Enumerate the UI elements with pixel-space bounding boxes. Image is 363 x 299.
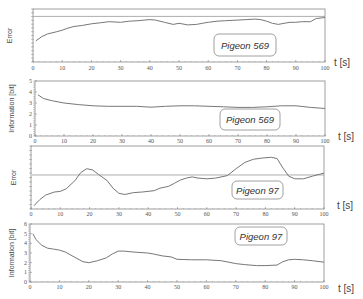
x-axis-unit-label: t [s] <box>338 131 354 142</box>
x-tick-label: 0 <box>34 138 37 144</box>
panel-information-pigeon-97: 01020304050607080901000123456Pigeon 97In… <box>8 221 354 294</box>
x-axis-unit-label: t [s] <box>337 200 353 211</box>
y-tick-label: 1 <box>24 269 27 275</box>
x-tick-label: 40 <box>148 138 154 144</box>
x-tick-label: 60 <box>206 138 212 144</box>
x-tick-label: 80 <box>262 211 268 217</box>
x-tick-label: 30 <box>118 65 124 71</box>
x-tick-label: 20 <box>86 284 92 290</box>
annotation-label: Pigeon 569 <box>226 114 275 125</box>
y-tick-label: 5 <box>24 231 27 237</box>
x-tick-label: 90 <box>292 211 298 217</box>
x-tick-label: 90 <box>293 138 299 144</box>
x-axis-unit-label: t [s] <box>338 283 354 294</box>
x-tick-label: 60 <box>205 65 211 71</box>
y-axis-label: Error <box>10 169 17 185</box>
panel-error-pigeon-569: 0102030405060708090100Pigeon 569Errort [… <box>6 9 350 71</box>
y-tick-label: 6 <box>24 221 27 227</box>
x-tick-label: 70 <box>234 65 240 71</box>
y-tick-label: 1 <box>29 122 32 128</box>
y-tick-label: 2 <box>24 260 27 266</box>
x-tick-label: 10 <box>61 138 67 144</box>
x-tick-label: 90 <box>293 65 299 71</box>
x-tick-label: 40 <box>145 284 151 290</box>
x-tick-label: 0 <box>29 284 32 290</box>
x-tick-label: 40 <box>145 211 151 217</box>
plot-frame <box>33 9 325 62</box>
x-tick-label: 30 <box>116 211 122 217</box>
y-tick-label: 3 <box>24 250 27 256</box>
annotation-label: Pigeon 569 <box>221 40 270 51</box>
y-tick-label: 0 <box>29 133 32 139</box>
y-tick-label: 2 <box>29 111 32 117</box>
x-tick-label: 80 <box>262 284 268 290</box>
panel-information-pigeon-569: 0102030405060708090100012345Pigeon 569In… <box>8 78 354 144</box>
x-tick-label: 50 <box>174 284 180 290</box>
x-tick-label: 20 <box>90 138 96 144</box>
x-tick-label: 40 <box>147 65 153 71</box>
y-tick-label: 5 <box>29 78 32 84</box>
x-tick-label: 80 <box>264 138 270 144</box>
x-tick-label: 20 <box>87 211 93 217</box>
x-tick-label: 0 <box>30 211 33 217</box>
x-tick-label: 80 <box>264 65 270 71</box>
y-tick-label: 0 <box>24 279 27 285</box>
x-tick-label: 20 <box>88 65 94 71</box>
y-axis-label: Information [bit] <box>8 229 16 277</box>
y-axis-label: Error <box>6 27 13 43</box>
x-tick-label: 100 <box>321 138 330 144</box>
x-tick-label: 70 <box>235 138 241 144</box>
series-line-error <box>36 18 325 41</box>
x-tick-label: 100 <box>320 211 329 217</box>
x-tick-label: 50 <box>177 138 183 144</box>
x-tick-label: 30 <box>115 284 121 290</box>
x-tick-label: 70 <box>233 284 239 290</box>
x-tick-label: 100 <box>320 284 329 290</box>
x-tick-label: 50 <box>176 65 182 71</box>
y-axis-label: Information [bit] <box>8 84 16 132</box>
x-tick-label: 70 <box>233 211 239 217</box>
x-tick-label: 60 <box>203 284 209 290</box>
series-line-information <box>38 95 325 109</box>
figure: 0102030405060708090100Pigeon 569Errort [… <box>0 0 363 299</box>
x-tick-label: 10 <box>56 284 62 290</box>
plot-frame <box>31 146 324 209</box>
x-tick-label: 30 <box>119 138 125 144</box>
x-tick-label: 10 <box>59 65 65 71</box>
x-tick-label: 90 <box>292 284 298 290</box>
x-tick-label: 100 <box>321 65 330 71</box>
y-tick-label: 4 <box>24 240 27 246</box>
x-tick-label: 60 <box>204 211 210 217</box>
panel-error-pigeon-97: 0102030405060708090100Pigeon 97Errort [s… <box>10 146 353 217</box>
y-tick-label: 4 <box>29 89 32 95</box>
annotation-label: Pigeon 97 <box>240 231 284 242</box>
x-tick-label: 10 <box>57 211 63 217</box>
x-tick-label: 50 <box>175 211 181 217</box>
annotation-label: Pigeon 97 <box>236 185 280 196</box>
x-tick-label: 0 <box>32 65 35 71</box>
x-axis-unit-label: t [s] <box>334 57 350 68</box>
plot-frame <box>35 81 325 136</box>
y-tick-label: 3 <box>29 100 32 106</box>
